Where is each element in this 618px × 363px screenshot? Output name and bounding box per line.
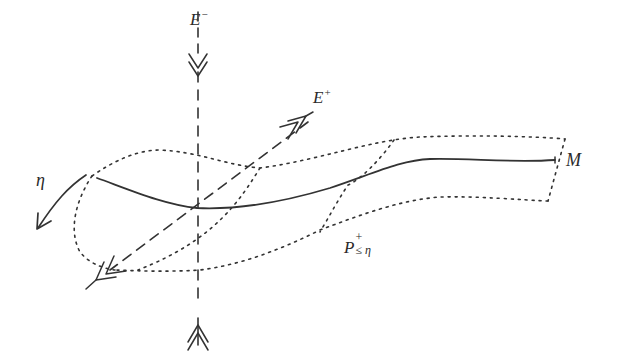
manifold-curve (97, 159, 555, 208)
label-e-plus: E+ (313, 88, 331, 108)
label-e-plus-sup: + (324, 86, 330, 98)
label-eta: η (36, 170, 45, 191)
neighborhood-boundary (74, 136, 565, 271)
label-region-sub: ≤ η (355, 243, 371, 258)
label-e-minus: E− (190, 10, 208, 30)
unstable-arrow-up-icon (280, 112, 313, 139)
label-region-base: P (344, 238, 354, 257)
diagram-canvas (0, 0, 618, 363)
unstable-direction-line (110, 122, 308, 270)
label-region-scripts: +≤ η (355, 239, 385, 259)
unstable-arrow-down-icon (86, 256, 126, 289)
label-region: P+≤ η (344, 238, 385, 259)
label-e-plus-base: E (313, 88, 323, 107)
label-e-minus-base: E (190, 10, 200, 29)
label-manifold: M (566, 150, 581, 171)
label-e-minus-sup: − (201, 8, 207, 20)
